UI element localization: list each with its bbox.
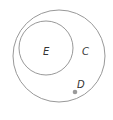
- venn-diagram: E C D: [0, 0, 113, 120]
- set-c-label: C: [82, 46, 89, 57]
- set-c-circle: [13, 10, 105, 102]
- point-d-marker: [73, 90, 78, 95]
- set-e-label: E: [43, 46, 50, 57]
- point-d-label: D: [77, 79, 85, 90]
